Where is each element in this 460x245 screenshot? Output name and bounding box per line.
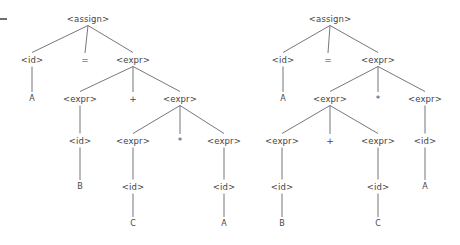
- tree-node-r13: <id>: [367, 183, 389, 192]
- tree-node-l7: <expr>: [163, 95, 197, 104]
- tree-node-r4: A: [280, 95, 286, 103]
- tree-edge: [133, 67, 180, 92]
- tree-edge: [85, 26, 88, 54]
- tree-node-r10: <expr>: [361, 137, 395, 146]
- tree-node-l8: <id>: [69, 137, 91, 146]
- tree-edge: [330, 67, 378, 92]
- tree-node-r9: +: [326, 137, 334, 146]
- tree-node-l10: *: [178, 137, 183, 146]
- tree-node-l0: <assign>: [67, 15, 109, 24]
- tree-edge: [80, 67, 133, 92]
- tree-node-l9: <expr>: [116, 137, 150, 146]
- tree-node-r1: <id>: [272, 56, 294, 65]
- stray-dash-mark: [0, 18, 7, 20]
- tree-node-r3: <expr>: [361, 56, 395, 65]
- tree-node-l13: <id>: [122, 183, 144, 192]
- tree-edge: [282, 106, 330, 134]
- tree-edge: [283, 26, 330, 53]
- tree-node-l2: =: [81, 56, 89, 65]
- tree-node-r5: <expr>: [313, 95, 347, 104]
- tree-node-r16: C: [375, 220, 381, 228]
- tree-node-l16: A: [221, 220, 227, 228]
- tree-node-l3: <expr>: [116, 56, 150, 65]
- tree-edge: [88, 26, 133, 53]
- tree-edge: [180, 106, 224, 134]
- tree-node-r8: <expr>: [265, 137, 299, 146]
- tree-node-l4: A: [29, 95, 35, 103]
- tree-node-r11: <id>: [414, 137, 436, 146]
- tree-node-l11: <expr>: [207, 137, 241, 146]
- tree-node-r7: <expr>: [408, 95, 442, 104]
- tree-edges-layer: [0, 0, 460, 245]
- tree-node-l12: B: [77, 183, 83, 191]
- tree-node-l6: +: [129, 95, 137, 104]
- tree-edge: [32, 26, 88, 53]
- tree-node-r0: <assign>: [309, 15, 351, 24]
- tree-node-l5: <expr>: [63, 95, 97, 104]
- tree-node-l15: C: [130, 220, 136, 228]
- tree-node-l1: <id>: [21, 56, 43, 65]
- tree-node-r15: B: [279, 220, 285, 228]
- tree-node-r2: =: [324, 56, 332, 65]
- tree-edge: [330, 106, 378, 134]
- tree-node-r12: <id>: [271, 183, 293, 192]
- tree-node-r6: *: [376, 95, 381, 104]
- tree-node-l14: <id>: [213, 183, 235, 192]
- tree-edge: [328, 26, 330, 54]
- tree-edge: [133, 106, 180, 134]
- parse-tree-figure: <assign><id>=<expr>A<expr>+<expr><id><ex…: [0, 0, 460, 245]
- tree-edge: [330, 26, 378, 53]
- tree-edge: [378, 67, 425, 92]
- tree-node-r14: A: [422, 183, 428, 191]
